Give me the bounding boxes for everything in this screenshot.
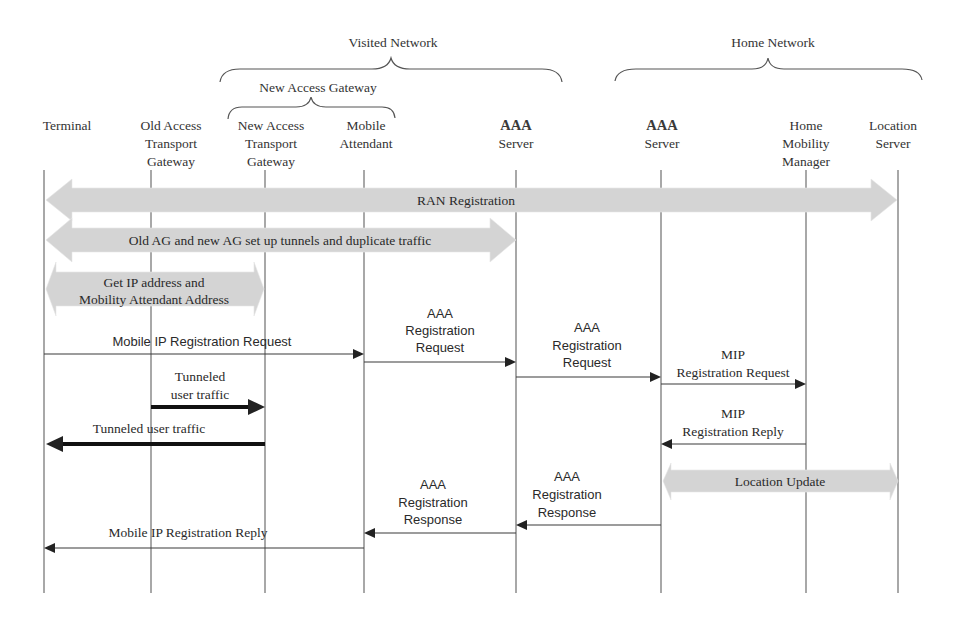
arrowhead-right-icon bbox=[353, 349, 364, 359]
message-label: Response bbox=[404, 512, 463, 527]
message-label: Response bbox=[538, 505, 597, 520]
participant-label: Terminal bbox=[43, 118, 92, 133]
message-label: Mobility Attendant Address bbox=[79, 292, 229, 307]
group-new-access-gateway: New Access Gateway bbox=[228, 80, 395, 119]
message-tunneled-user-traffic-2: Tunneled user traffic bbox=[46, 421, 265, 452]
participant-label: Attendant bbox=[339, 136, 392, 151]
message-label: Request bbox=[416, 340, 465, 355]
message-label: Location Update bbox=[735, 474, 825, 489]
arrowhead-right-icon bbox=[505, 357, 516, 367]
message-label: MIP bbox=[721, 406, 745, 421]
group-label: Home Network bbox=[731, 35, 815, 50]
arrowhead-left-icon bbox=[661, 439, 672, 449]
brace-icon bbox=[220, 58, 562, 82]
group-visited-network: Visited Network bbox=[220, 35, 562, 82]
brace-icon bbox=[615, 58, 922, 81]
message-label: Mobile IP Registration Reply bbox=[109, 525, 268, 540]
participant-label: Gateway bbox=[247, 154, 295, 169]
arrowhead-left-icon bbox=[44, 543, 55, 553]
participant-label: Transport bbox=[245, 136, 297, 151]
participant-old-access-transport-gateway: Old Access Transport Gateway bbox=[140, 118, 201, 169]
message-label: RAN Registration bbox=[417, 193, 515, 208]
message-aaa-registration-response-2: AAA Registration Response bbox=[364, 477, 516, 538]
participant-label: New Access bbox=[238, 118, 304, 133]
arrowhead-left-icon bbox=[364, 528, 375, 538]
arrowhead-right-icon bbox=[795, 379, 806, 389]
participant-visited-aaa-server: AAA Server bbox=[498, 117, 534, 151]
message-mobile-ip-registration-request: Mobile IP Registration Request bbox=[44, 334, 364, 359]
participant-label: Gateway bbox=[147, 154, 195, 169]
participant-label: Transport bbox=[145, 136, 197, 151]
message-label: Registration bbox=[552, 338, 621, 353]
participant-label: AAA bbox=[646, 117, 678, 133]
message-mip-registration-request: MIP Registration Request bbox=[661, 347, 806, 389]
message-label: Tunneled bbox=[175, 369, 226, 384]
message-label: AAA bbox=[554, 469, 580, 484]
message-mip-registration-reply: MIP Registration Reply bbox=[661, 406, 806, 449]
message-label: Registration bbox=[398, 495, 467, 510]
message-tunneled-user-traffic-1: Tunneled user traffic bbox=[151, 369, 265, 415]
arrowhead-right-icon bbox=[650, 372, 661, 382]
participant-label: Location bbox=[869, 118, 917, 133]
participant-label: Mobility bbox=[782, 136, 830, 151]
message-label: Get IP address and bbox=[103, 275, 204, 290]
participant-terminal: Terminal bbox=[43, 118, 92, 133]
participant-label: Mobile bbox=[347, 118, 386, 133]
message-aaa-registration-request-2: AAA Registration Request bbox=[516, 320, 661, 382]
message-aaa-registration-request-1: AAA Registration Request bbox=[364, 306, 516, 367]
group-label: Visited Network bbox=[349, 35, 438, 50]
message-label: Registration Request bbox=[677, 365, 790, 380]
message-label: AAA bbox=[574, 320, 600, 335]
participant-mobile-attendant: Mobile Attendant bbox=[339, 118, 392, 151]
participant-location-server: Location Server bbox=[869, 118, 917, 151]
message-label: Registration bbox=[405, 323, 474, 338]
message-label: Old AG and new AG set up tunnels and dup… bbox=[129, 233, 432, 248]
message-tunnel-setup: Old AG and new AG set up tunnels and dup… bbox=[46, 218, 516, 262]
message-label: AAA bbox=[427, 306, 453, 321]
brace-icon bbox=[228, 97, 395, 119]
message-label: Registration Reply bbox=[682, 424, 784, 439]
arrowhead-left-icon bbox=[46, 436, 63, 452]
participant-new-access-transport-gateway: New Access Transport Gateway bbox=[238, 118, 304, 169]
message-location-update: Location Update bbox=[663, 463, 898, 500]
group-home-network: Home Network bbox=[615, 35, 922, 81]
participant-label: Manager bbox=[782, 154, 830, 169]
arrowhead-left-icon bbox=[516, 520, 527, 530]
message-label: user traffic bbox=[171, 387, 230, 402]
participant-home-aaa-server: AAA Server bbox=[644, 117, 680, 151]
message-label: Registration bbox=[532, 487, 601, 502]
participant-label: AAA bbox=[500, 117, 532, 133]
participant-label: Old Access bbox=[140, 118, 201, 133]
message-label: Tunneled user traffic bbox=[93, 421, 205, 436]
participant-label: Server bbox=[644, 136, 680, 151]
message-label: AAA bbox=[420, 477, 446, 492]
participant-label: Server bbox=[498, 136, 534, 151]
participant-label: Server bbox=[875, 136, 911, 151]
message-aaa-registration-response-1: AAA Registration Response bbox=[516, 469, 661, 530]
participant-home-mobility-manager: Home Mobility Manager bbox=[782, 118, 830, 169]
group-label: New Access Gateway bbox=[259, 80, 377, 95]
message-label: Request bbox=[563, 355, 612, 370]
sequence-diagram: Visited Network New Access Gateway Home … bbox=[0, 0, 955, 622]
message-get-ip-address: Get IP address and Mobility Attendant Ad… bbox=[46, 262, 264, 316]
message-ran-registration: RAN Registration bbox=[46, 179, 897, 221]
message-label: Mobile IP Registration Request bbox=[113, 334, 292, 349]
message-label: MIP bbox=[721, 347, 745, 362]
message-mobile-ip-registration-reply: Mobile IP Registration Reply bbox=[44, 525, 364, 553]
arrowhead-right-icon bbox=[248, 399, 265, 415]
participant-label: Home bbox=[790, 118, 823, 133]
